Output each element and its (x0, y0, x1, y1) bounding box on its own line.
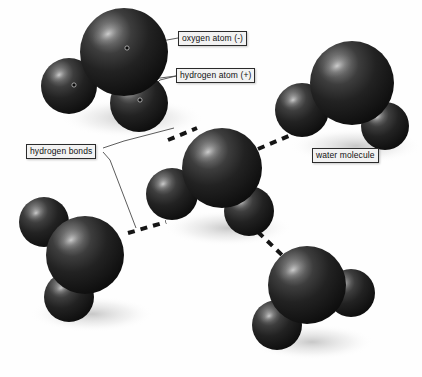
oxygen-atom-sphere (182, 128, 262, 208)
anchor-oxygen-atom (125, 46, 129, 50)
label-oxygen-atom: oxygen atom (-) (178, 31, 247, 46)
water-hydrogen-bond-diagram: oxygen atom (-) hydrogen atom (+) hydrog… (0, 0, 422, 377)
oxygen-atom-sphere (268, 246, 346, 324)
anchor-hydrogen-left (72, 83, 76, 87)
anchor-hydrogen-right (138, 98, 142, 102)
oxygen-atom-sphere (310, 41, 394, 125)
label-hydrogen-atom: hydrogen atom (+) (176, 68, 255, 83)
diagram-canvas (0, 0, 422, 377)
leader-hydrogen-bonds-lower (103, 152, 136, 228)
label-water-molecule: water molecule (312, 148, 379, 163)
label-hydrogen-bonds: hydrogen bonds (26, 144, 96, 159)
oxygen-atom-sphere (46, 216, 124, 294)
oxygen-atom-sphere (80, 8, 168, 96)
bond-center-to-bottom-left (128, 222, 166, 233)
